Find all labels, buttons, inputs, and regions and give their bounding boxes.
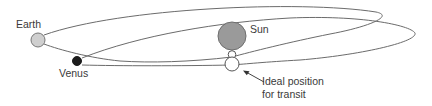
earth-label: Earth: [16, 19, 41, 30]
ideal-position-label-line1: Ideal position: [262, 76, 324, 87]
sun: [218, 22, 246, 50]
sun-label: Sun: [250, 24, 269, 35]
transit-diagram: Earth Venus Sun Ideal position for trans…: [0, 0, 432, 106]
ideal-transit-position: [225, 57, 239, 71]
orbit-drawing: [0, 0, 432, 106]
venus-planet: [73, 57, 82, 66]
venus-label: Venus: [59, 68, 88, 79]
ideal-position-label-line2: for transit: [262, 89, 306, 100]
venus-orbit: [82, 17, 415, 65]
earth-planet: [31, 33, 45, 47]
